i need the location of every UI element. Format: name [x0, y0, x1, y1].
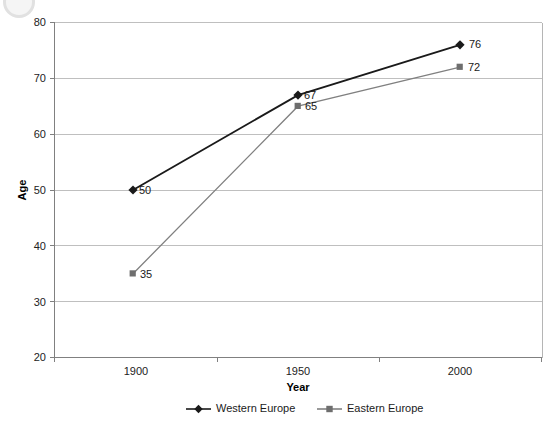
eastern-point-label-2000: 72	[468, 61, 480, 73]
y-axis-title: Age	[16, 180, 28, 201]
x-axis-title: Year	[286, 381, 310, 393]
legend-item-western-europe[interactable]: Western Europe	[186, 402, 295, 414]
western-point-label-2000: 76	[469, 38, 481, 50]
y-tick-label-30: 30	[34, 296, 46, 308]
eastern-point-label-1950: 65	[305, 100, 317, 112]
y-tick-label-70: 70	[34, 72, 46, 84]
y-tick-label-40: 40	[34, 240, 46, 252]
legend-label-eastern-europe: Eastern Europe	[347, 402, 423, 414]
series-western-europe: 50 67 76	[128, 38, 481, 196]
y-tick-label-20: 20	[34, 351, 46, 363]
chart-legend: Western Europe Eastern Europe	[186, 402, 423, 414]
y-tick-label-60: 60	[34, 128, 46, 140]
western-marker-1900	[128, 185, 137, 194]
y-tick-label-80: 80	[34, 16, 46, 28]
x-tick-label-1900: 1900	[124, 365, 148, 377]
y-tick-label-50: 50	[34, 184, 46, 196]
eastern-marker-1900	[130, 270, 136, 276]
diamond-marker-icon	[194, 405, 202, 413]
western-point-label-1950: 67	[304, 89, 316, 101]
legend-item-eastern-europe[interactable]: Eastern Europe	[317, 402, 423, 414]
western-point-label-1900: 50	[139, 184, 151, 196]
x-tick-label-1950: 1950	[286, 365, 310, 377]
western-europe-line	[133, 45, 460, 190]
eastern-marker-2000	[457, 64, 463, 70]
western-marker-1950	[293, 91, 302, 100]
eastern-point-label-1900: 35	[140, 268, 152, 280]
chart-canvas: 80 70 60 50 40 30 20 Age 1900 1950 2000 …	[0, 0, 560, 428]
eastern-marker-1950	[295, 103, 301, 109]
x-tick-label-2000: 2000	[448, 365, 472, 377]
western-marker-2000	[455, 40, 464, 49]
square-marker-icon	[326, 406, 332, 412]
line-chart: 80 70 60 50 40 30 20 Age 1900 1950 2000 …	[0, 0, 560, 428]
legend-label-western-europe: Western Europe	[216, 402, 295, 414]
